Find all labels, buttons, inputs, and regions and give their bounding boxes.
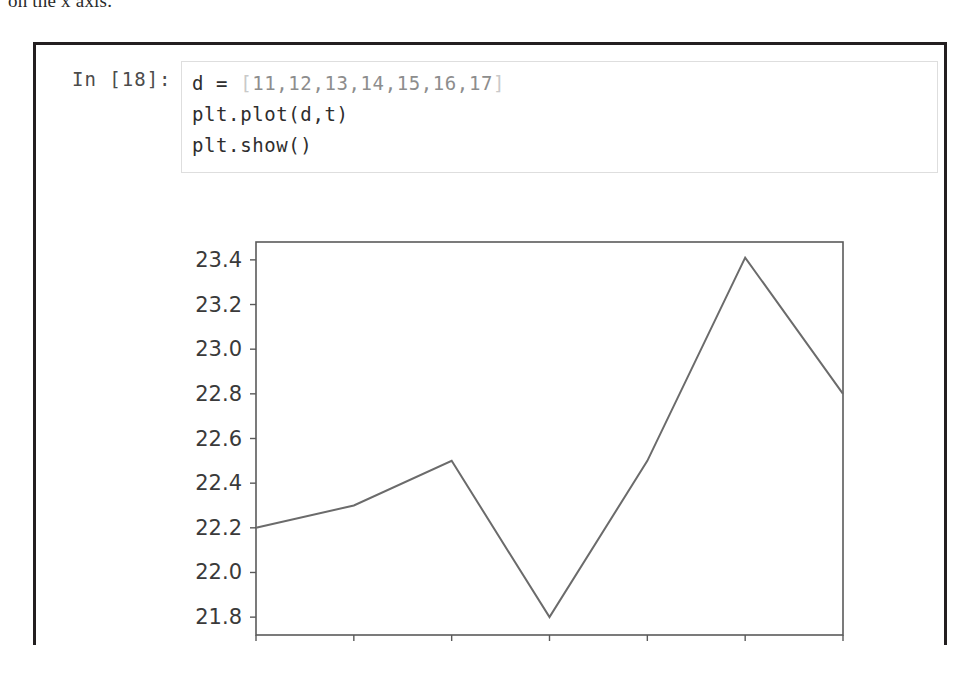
svg-text:11: 11 bbox=[243, 643, 270, 645]
notebook-cell-frame: In [18]: d = [11,12,13,14,15,16,17] plt.… bbox=[33, 42, 947, 645]
svg-text:23.4: 23.4 bbox=[195, 248, 242, 272]
svg-text:22.0: 22.0 bbox=[195, 560, 242, 584]
svg-text:13: 13 bbox=[438, 643, 465, 645]
code-line-1: d = [11,12,13,14,15,16,17] bbox=[192, 68, 927, 99]
svg-text:23.2: 23.2 bbox=[195, 293, 242, 317]
svg-text:22.8: 22.8 bbox=[195, 382, 242, 406]
svg-text:21.8: 21.8 bbox=[195, 605, 242, 629]
code-line-3: plt.show() bbox=[192, 130, 927, 161]
code-line-2: plt.plot(d,t) bbox=[192, 99, 927, 130]
code-open-bracket: [ bbox=[240, 72, 252, 94]
code-list-values: 11,12,13,14,15,16,17 bbox=[252, 72, 493, 94]
svg-text:23.0: 23.0 bbox=[195, 337, 242, 361]
svg-text:15: 15 bbox=[634, 643, 661, 645]
svg-text:12: 12 bbox=[340, 643, 367, 645]
code-assign-prefix: d = bbox=[192, 72, 240, 94]
y-axis-tick-labels: 21.822.022.222.422.622.823.023.223.4 bbox=[195, 248, 242, 629]
svg-text:14: 14 bbox=[536, 643, 563, 645]
svg-text:22.2: 22.2 bbox=[195, 516, 242, 540]
page-prose-fragment: on the x axis. bbox=[8, 0, 308, 12]
svg-text:17: 17 bbox=[830, 643, 857, 645]
input-prompt-label: In [18]: bbox=[72, 68, 172, 90]
svg-text:22.6: 22.6 bbox=[195, 427, 242, 451]
line-plot: 21.822.022.222.422.622.823.023.223.4 111… bbox=[36, 185, 944, 645]
figure-background bbox=[36, 185, 944, 645]
code-close-bracket: ] bbox=[493, 72, 505, 94]
code-input-box[interactable]: d = [11,12,13,14,15,16,17] plt.plot(d,t)… bbox=[181, 61, 938, 173]
svg-text:16: 16 bbox=[732, 643, 759, 645]
matplotlib-figure-output: 21.822.022.222.422.622.823.023.223.4 111… bbox=[36, 185, 944, 645]
svg-text:22.4: 22.4 bbox=[195, 471, 242, 495]
